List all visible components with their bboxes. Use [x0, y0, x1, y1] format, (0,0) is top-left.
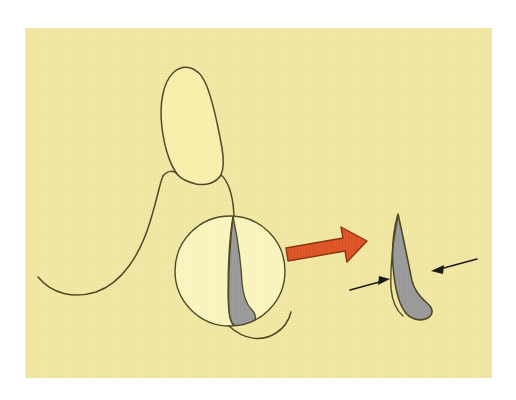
illustration-card	[25, 28, 492, 378]
figure-root: Tooth cross-section with magnified ename…	[0, 0, 516, 400]
dental-illustration-svg	[0, 0, 516, 400]
